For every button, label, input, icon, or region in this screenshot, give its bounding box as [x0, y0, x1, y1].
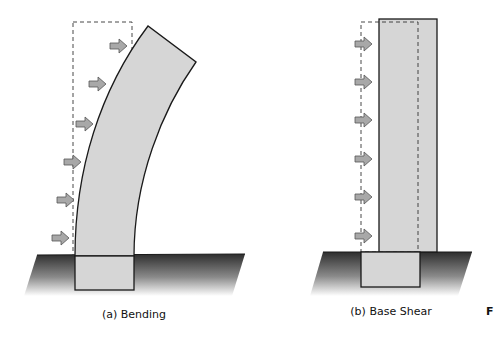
caption-bending: (a) Bending: [102, 308, 166, 321]
panel-base-shear: [310, 19, 472, 296]
caption-base-shear: (b) Base Shear: [350, 305, 431, 318]
cutoff-label: F: [486, 305, 494, 318]
bent-column: [75, 26, 196, 256]
shifted-column: [379, 19, 437, 252]
foundation: [75, 256, 134, 290]
load-arrows: [355, 37, 372, 243]
diagram-canvas: [0, 0, 494, 347]
foundation: [361, 252, 420, 287]
panel-bending: [24, 22, 245, 296]
